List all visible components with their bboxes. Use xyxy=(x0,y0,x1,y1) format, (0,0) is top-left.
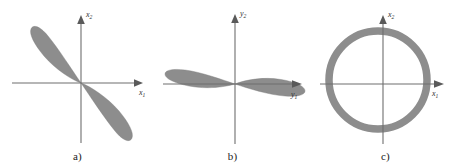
panel-c-caption: c) xyxy=(310,150,461,162)
panel-a: x1 x2 a) xyxy=(0,0,155,168)
panel-c-y-arrowhead xyxy=(379,15,387,24)
panel-b-y-axis-label: y2 xyxy=(239,9,247,19)
lobe-left xyxy=(165,69,235,87)
panel-b: y1 y2 b) xyxy=(155,0,310,168)
panel-a-y-arrowhead xyxy=(77,15,85,24)
panel-a-x-arrowhead xyxy=(134,79,143,87)
panel-a-caption: a) xyxy=(0,150,155,162)
panel-c-x-axis-label: x1 xyxy=(431,89,439,99)
panel-a-plot: x1 x2 xyxy=(0,0,155,168)
panel-c-x-arrowhead xyxy=(434,80,444,88)
panel-c-shape xyxy=(329,31,427,129)
panel-c-plot: x1 x2 xyxy=(310,0,461,168)
panel-c-y-axis-label: x2 xyxy=(387,10,395,20)
panel-b-caption: b) xyxy=(155,150,310,162)
panel-a-y-axis-label: x2 xyxy=(85,10,93,20)
annulus-ring xyxy=(329,31,427,129)
lobe-upper-left xyxy=(31,26,81,83)
figure-container: x1 x2 a) y1 y2 b) xyxy=(0,0,461,168)
panel-c: x1 x2 c) xyxy=(310,0,461,168)
panel-a-x-axis-label: x1 xyxy=(138,88,146,98)
lobe-lower-right xyxy=(81,83,132,141)
panel-b-plot: y1 y2 xyxy=(155,0,310,168)
panel-b-y-arrowhead xyxy=(231,14,239,23)
